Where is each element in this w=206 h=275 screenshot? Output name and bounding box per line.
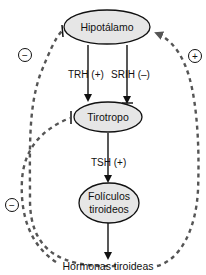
node-foliculos: Folículos tiroideos <box>79 183 139 223</box>
minus-sign-outer: − <box>19 49 32 62</box>
plus-sign: + <box>189 50 202 63</box>
svg-text:−: − <box>22 50 28 61</box>
tsh-label: TSH (+) <box>91 157 126 168</box>
feedback-left-outer <box>30 25 116 266</box>
svg-text:tiroideos: tiroideos <box>89 203 129 215</box>
node-hipotalamo: Hipotálamo <box>64 10 150 44</box>
srih-label: SRIH (–) <box>111 69 150 80</box>
trh-label: TRH (+) <box>68 69 104 80</box>
node-hormonas: Hormonas tiroideas <box>62 260 153 272</box>
node-tirotropo: Tirotropo <box>74 102 142 132</box>
svg-text:Folículos: Folículos <box>88 190 130 202</box>
svg-text:+: + <box>192 51 198 62</box>
feedback-right <box>156 33 198 266</box>
svg-text:−: − <box>9 200 15 211</box>
svg-text:Tirotropo: Tirotropo <box>87 111 129 123</box>
minus-sign-inner: − <box>6 199 19 212</box>
svg-text:Hipotálamo: Hipotálamo <box>80 21 133 33</box>
inhibition-bar-hipotalamo <box>62 25 63 37</box>
thyroid-axis-diagram: − + − TRH (+) SRIH (–) TSH (+) Hipotálam… <box>0 0 206 275</box>
